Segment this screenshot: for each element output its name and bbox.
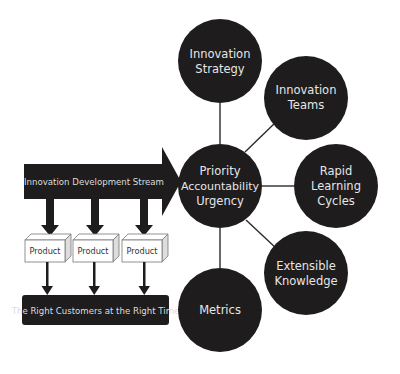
node-label-line: Rapid [320,164,353,178]
node-label-line: Teams [287,98,324,112]
node-innovation-teams: Innovation Teams [264,56,348,140]
product-box-3: Product [122,234,168,262]
thin-arrow-1-icon [42,262,54,295]
thin-arrow-2-icon [89,262,101,295]
node-label-line: Extensible [276,259,336,273]
down-arrow-1-icon [41,199,59,236]
node-label-line: Cycles [317,194,354,208]
node-metrics: Metrics [178,268,262,352]
product-label-3: Product [126,246,158,256]
down-arrow-2-icon [86,199,104,236]
node-label-line: Strategy [195,62,244,76]
node-label-line: Innovation [190,47,251,61]
node-label-line: Learning [311,179,361,193]
node-label-line: Knowledge [274,274,337,288]
hub-label-line: Priority [200,164,241,178]
diagram-canvas: Innovation Development Stream Product Pr… [0,0,400,374]
stream-arrow-label: Innovation Development Stream [24,177,164,187]
node-innovation-strategy: Innovation Strategy [178,19,262,103]
hub-label-line: Urgency [196,194,244,208]
node-rapid-learning-cycles: Rapid Learning Cycles [294,144,378,228]
product-label-1: Product [29,246,61,256]
down-arrow-3-icon [135,199,153,236]
outcome-label: The Right Customers at the Right Time [11,306,180,316]
outcome-box: The Right Customers at the Right Time [11,295,180,325]
connector-teams [245,122,276,152]
thin-arrow-3-icon [139,262,151,295]
node-label-line: Metrics [199,303,241,317]
connector-extensible-knowledge [246,220,277,249]
product-box-1: Product [25,234,71,262]
node-extensible-knowledge: Extensible Knowledge [264,231,348,315]
node-hub-priority-accountability-urgency: Priority Accountability Urgency [178,144,262,228]
product-box-2: Product [73,234,119,262]
stream-to-product-arrows [41,199,153,236]
node-label-line: Innovation [276,83,337,97]
product-to-outcome-arrows [42,262,151,295]
product-label-2: Product [77,246,109,256]
hub-label-line: Accountability [181,180,260,193]
